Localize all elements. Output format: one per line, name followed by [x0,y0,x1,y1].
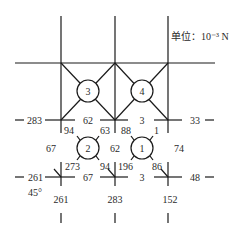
n1-spoke-tr [150,136,153,140]
row1-member-left: 62 [83,115,93,126]
unit-label: 单位：10⁻³ N [171,30,229,42]
vertical-middle-label: 62 [110,143,120,154]
row2-right-label: 48 [190,172,200,183]
n1-spoke-bl [131,156,134,160]
diag-n2-bl: 273 [65,161,80,172]
bottom-middle-label: 283 [108,194,123,205]
node-3-label: 3 [86,86,91,97]
diag-n1-tr: 1 [154,125,159,136]
node-2-label: 2 [86,143,91,154]
diag-n1-br: 86 [152,161,162,172]
diag-n1-bl: 196 [118,161,133,172]
vertical-left-label: 67 [46,143,56,154]
row2-member-right: 3 [140,172,145,183]
tick-left [54,169,61,177]
diag-n2-tr: 63 [100,125,110,136]
node-1-label: 1 [140,143,145,154]
bottom-right-label: 152 [163,194,178,205]
row2-member-left: 67 [83,172,93,183]
n1-spoke-tl [131,136,134,140]
row1-member-right: 3 [140,115,145,126]
n2-spoke-tl [77,136,80,140]
row2-left-label: 261 [28,172,43,183]
angle-label: 45° [28,187,42,198]
tick-mid [108,169,115,177]
n2-spoke-br [96,156,99,160]
node-4-label: 4 [140,86,145,97]
row1-left-label: 283 [27,115,42,126]
diag-n2-tl: 94 [64,125,74,136]
diag-n1-tl: 88 [121,125,131,136]
tick-right [161,169,168,177]
truss-force-diagram: 3 4 单位：10⁻³ N 283 62 3 33 2 1 94 63 88 1… [0,0,233,238]
row1-right-label: 33 [190,115,200,126]
vertical-right-label: 74 [174,143,184,154]
n2-spoke-bl [77,156,80,160]
n2-spoke-tr [96,136,99,140]
n1-spoke-br [150,156,153,160]
bottom-left-label: 261 [54,194,69,205]
